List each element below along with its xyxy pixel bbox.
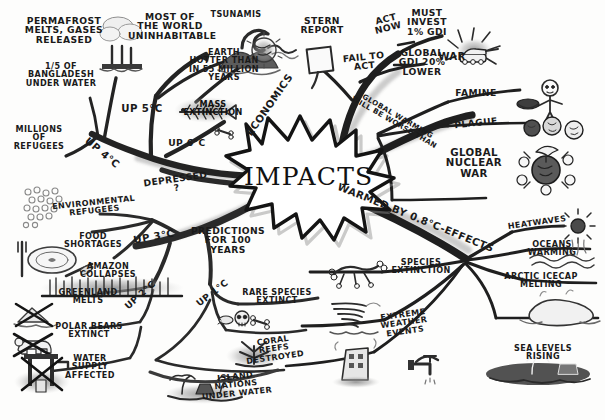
- node-arctic-icecap-melting[interactable]: ARCTIC ICECAP MELTING: [502, 272, 580, 289]
- node-up-5c[interactable]: UP 5°C: [118, 104, 166, 114]
- node-predictions[interactable]: PREDICTIONS FOR 100 YEARS: [186, 226, 270, 254]
- node-sea-levels-rising[interactable]: SEA LEVELS RISING: [496, 344, 590, 361]
- node-species-extinction[interactable]: SPECIES EXTINCTION: [386, 258, 456, 275]
- node-food-shortages[interactable]: FOOD SHORTAGES: [58, 232, 128, 249]
- mindmap-canvas: IMPACTS PERMAFROST MELTS, GASES RELEASED…: [0, 0, 605, 420]
- node-up-6c[interactable]: UP 6°C: [164, 138, 210, 147]
- node-famine[interactable]: FAMINE: [448, 88, 504, 97]
- node-greenland-melts[interactable]: GREENLAND MELTS: [54, 288, 122, 305]
- node-amazon-collapses[interactable]: AMAZON COLLAPSES: [74, 262, 142, 279]
- node-water-supply[interactable]: WATER SUPPLY AFFECTED: [54, 354, 126, 379]
- node-polar-bears-extinct[interactable]: POLAR BEARS EXTINCT: [54, 322, 124, 339]
- node-most-world-uninhabitable[interactable]: MOST OF THE WORLD UNINHABITABLE: [128, 12, 212, 40]
- node-earth-hotter[interactable]: EARTH HOTTER THAN IN 55 MILLION YEARS: [186, 48, 262, 81]
- node-oceans-warming[interactable]: OCEANS WARMING: [508, 240, 596, 257]
- node-war[interactable]: WAR: [436, 52, 468, 62]
- node-permafrost[interactable]: PERMAFROST MELTS, GASES RELEASED: [16, 16, 112, 44]
- node-must-invest[interactable]: MUST INVEST 1% GDI: [398, 8, 456, 36]
- node-mass-extinction[interactable]: MASS EXTINCTION: [182, 100, 244, 117]
- node-tsunamis[interactable]: TSUNAMIS: [206, 10, 266, 18]
- node-global-nuclear-war[interactable]: GLOBAL NUCLEAR WAR: [442, 148, 506, 179]
- node-stern-report[interactable]: STERN REPORT: [292, 16, 352, 35]
- node-rare-species-extinct[interactable]: RARE SPECIES EXTINCT: [240, 288, 314, 305]
- node-millions-refugees[interactable]: MILLIONS OF REFUGEES: [8, 125, 70, 150]
- node-bangladesh[interactable]: 1/5 OF BANGLADESH UNDER WATER: [18, 62, 104, 87]
